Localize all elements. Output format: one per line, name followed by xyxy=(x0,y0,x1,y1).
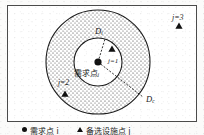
facility-label-j3: j=3 xyxy=(172,14,184,22)
inner-radius-label: Di xyxy=(95,27,103,36)
figure-legend: 需求点 i 备选设施点 j xyxy=(22,125,204,135)
circle-marker-icon xyxy=(22,127,27,132)
inner-radius-subscript: i xyxy=(101,30,102,36)
legend-item-demand-point: 需求点 i xyxy=(22,125,59,135)
facility-label-j1: j=1 xyxy=(108,58,118,65)
demand-point-label: 需求点i xyxy=(74,70,99,79)
demand-point-marker xyxy=(94,58,101,65)
outer-radius-subscript: c xyxy=(152,98,154,104)
demand-point-subscript: i xyxy=(97,72,98,78)
facility-marker-j3 xyxy=(175,23,182,29)
figure-root: Di Dc j=1 j=2 j=3 需求点i 需求点 i 备选设施点 j xyxy=(0,0,204,135)
demand-point-text: 需求点 xyxy=(74,69,97,78)
legend-label-facility: 备选设施点 j xyxy=(86,125,131,135)
facility-label-j2: j=2 xyxy=(58,79,69,87)
outer-radius-label: Dc xyxy=(146,95,154,104)
triangle-marker-icon xyxy=(77,127,83,132)
legend-item-facility: 备选设施点 j xyxy=(77,125,131,135)
legend-label-demand-point: 需求点 i xyxy=(30,125,59,135)
